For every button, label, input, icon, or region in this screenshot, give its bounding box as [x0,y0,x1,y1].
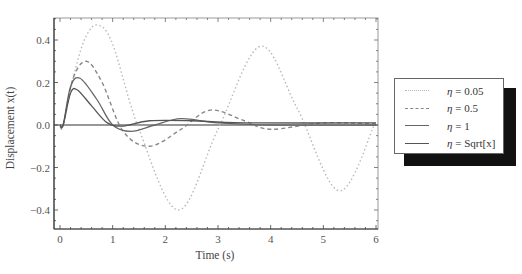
x-tick-label: 1 [110,233,116,245]
y-tick-label: 0.2 [36,77,50,89]
legend-label: = Sqrt[x] [452,137,495,149]
legend-item-eta-05: η = 0.5 [395,100,503,118]
y-tick-label: −0.4 [30,204,50,216]
y-tick-label: 0.4 [36,34,50,46]
x-tick-label: 3 [215,233,221,245]
solid-line-swatch-icon [405,125,429,126]
x-tick-label: 6 [373,233,379,245]
series-line-3 [60,88,376,127]
x-tick-labels: 0123456 [57,233,379,245]
legend: η = 0.05 η = 0.5 η = 1 η = Sqrt[x] [394,78,504,154]
y-tick-label: 0.0 [36,119,50,131]
x-axis-title: Time (s) [196,249,235,262]
dotted-line-swatch-icon [405,90,429,91]
plot-curves [60,25,376,210]
legend-item-eta-1: η = 1 [395,117,503,135]
y-tick-labels: −0.4−0.20.00.20.4 [30,34,50,216]
x-tick-label: 0 [57,233,63,245]
x-tick-label: 5 [321,233,327,245]
legend-label: = 0.5 [452,102,477,114]
dashed-line-swatch-icon [405,108,429,109]
y-axis-title: Displacement x(t) [4,86,17,169]
x-tick-label: 4 [268,233,274,245]
series-line-1 [60,61,376,146]
y-tick-label: −0.2 [30,162,50,174]
legend-item-eta-sqrt: η = Sqrt[x] [395,135,503,153]
solid-line-swatch-icon [405,143,429,144]
legend-label: = 0.05 [452,85,483,97]
x-tick-label: 2 [163,233,169,245]
legend-label: = 1 [452,120,469,132]
legend-item-eta-005: η = 0.05 [395,82,503,100]
